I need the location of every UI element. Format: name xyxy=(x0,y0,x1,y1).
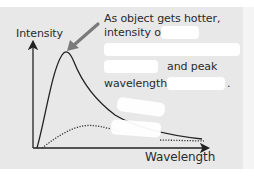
blank-wavelength[interactable] xyxy=(167,77,225,90)
x-axis-label: Wavelength xyxy=(145,151,215,164)
caption-line-1: As object gets hotter, xyxy=(104,12,220,25)
caption-line-4: and peak xyxy=(167,60,217,73)
cool-curve-tail xyxy=(160,140,204,141)
blank-line4[interactable] xyxy=(104,60,158,73)
caption-line-2: intensity of xyxy=(104,26,165,39)
caption-period: . xyxy=(227,77,230,90)
caption-line-5: wavelength xyxy=(104,77,167,90)
cool-curve xyxy=(42,125,120,148)
blank-line3[interactable] xyxy=(104,43,240,56)
blank-intensity-of[interactable] xyxy=(161,26,199,39)
y-axis-label: Intensity xyxy=(16,27,63,40)
pointer-arrow-shaft xyxy=(74,24,98,45)
